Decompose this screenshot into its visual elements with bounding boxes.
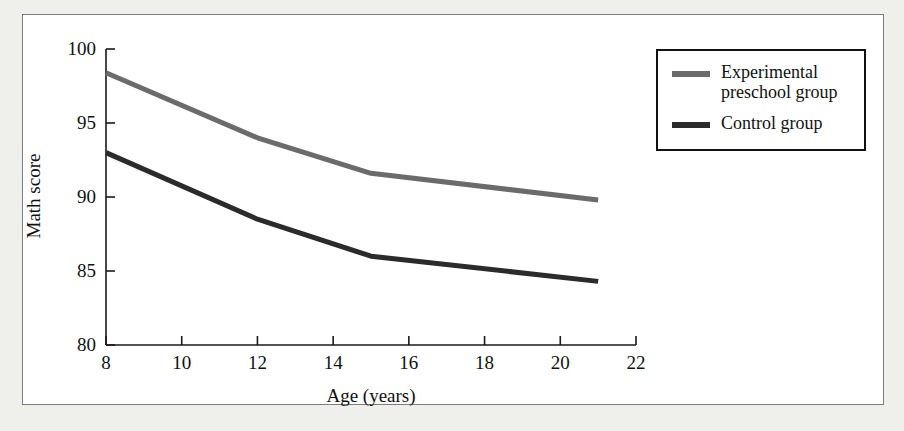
- legend-entry-control: Control group: [672, 113, 823, 133]
- x-tick-label: 12: [232, 353, 282, 372]
- legend-label-control: Control group: [721, 113, 823, 133]
- y-tick-label: 90: [44, 187, 96, 206]
- x-tick-label: 16: [384, 353, 434, 372]
- chart-legend: Experimental preschool group Control gro…: [656, 49, 866, 151]
- legend-entry-experimental: Experimental preschool group: [672, 62, 861, 102]
- x-tick-label: 14: [308, 353, 358, 372]
- y-tick-label: 100: [44, 39, 96, 58]
- x-tick-label: 18: [460, 353, 510, 372]
- legend-swatch-experimental: [672, 71, 710, 77]
- x-axis-title: Age (years): [106, 385, 636, 407]
- y-axis-title: Math score: [23, 116, 45, 276]
- x-tick-label: 10: [157, 353, 207, 372]
- legend-swatch-control: [672, 122, 710, 128]
- y-tick-label: 95: [44, 113, 96, 132]
- y-tick-label: 85: [44, 261, 96, 280]
- y-tick-label: 80: [44, 335, 96, 354]
- x-tick-label: 8: [81, 353, 131, 372]
- legend-label-experimental: Experimental preschool group: [721, 62, 861, 102]
- x-tick-label: 20: [535, 353, 585, 372]
- figure-panel: Math score Age (years) 80859095100810121…: [22, 14, 884, 405]
- figure-root: Math score Age (years) 80859095100810121…: [0, 0, 904, 431]
- x-tick-label: 22: [611, 353, 661, 372]
